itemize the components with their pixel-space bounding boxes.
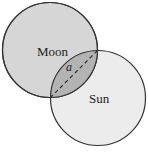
eclipse-svg <box>0 0 148 157</box>
eclipse-diagram: Moon Sun a <box>0 0 148 157</box>
moon-label: Moon <box>37 45 68 58</box>
chord-label-a: a <box>66 61 72 73</box>
sun-label: Sun <box>89 92 109 105</box>
